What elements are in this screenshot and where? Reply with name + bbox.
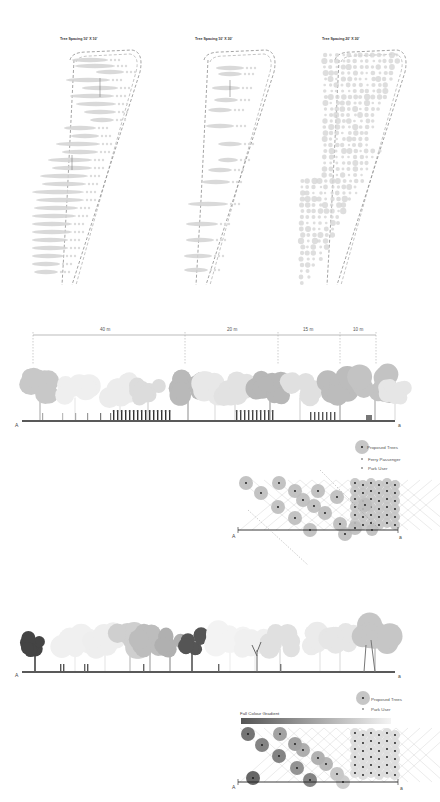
section-elevation-2 <box>0 590 440 690</box>
legend-park-user: Park User <box>368 466 388 471</box>
section2-start-label: A <box>15 672 18 678</box>
legend2-park-user: Park User <box>371 707 391 712</box>
dim-20m: 20 m <box>227 327 237 332</box>
spacing-diagram-2 <box>220 690 440 802</box>
diagram1-start-label: A <box>232 533 235 539</box>
legend2-proposed-trees: Proposed Trees <box>371 697 402 702</box>
legend-proposed-trees: Proposed Trees <box>367 445 398 450</box>
section1-end-label: a <box>398 422 401 428</box>
fall-colour-gradient-label: Fall Colour Gradient <box>240 711 279 716</box>
diagram1-end-label: a <box>399 534 402 540</box>
spacing-diagram-1 <box>220 430 440 570</box>
section1-start-label: A <box>15 422 18 428</box>
tree-spacing-plans <box>0 0 440 300</box>
dim-10m: 10 m <box>353 327 363 332</box>
diagram2-start-label: A <box>232 784 235 790</box>
section2-end-label: a <box>398 673 401 679</box>
section-elevation-1 <box>0 320 440 430</box>
dim-40m: 40 m <box>100 327 110 332</box>
dim-15m: 15 m <box>303 327 313 332</box>
diagram2-end-label: a <box>400 785 403 791</box>
legend-ferry-passenger: Ferry Passenger <box>368 457 400 462</box>
